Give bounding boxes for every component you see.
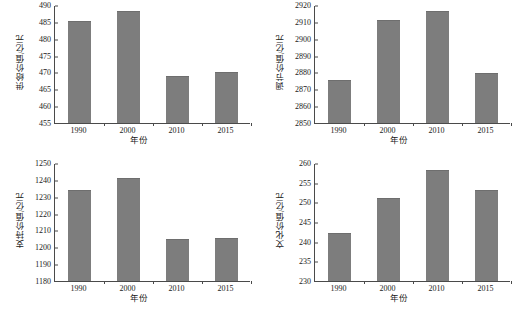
y-tick-mark [315, 39, 318, 40]
y-axis-title: 供给价值/亿元 [14, 0, 28, 124]
y-tick-mark [55, 214, 58, 215]
y-tick-mark [315, 56, 318, 57]
y-tick-label: 2910 [295, 19, 311, 27]
y-tick-label: 260 [299, 160, 311, 168]
x-tick-label: 2000 [380, 127, 396, 135]
bar [68, 21, 91, 123]
y-tick-label: 2850 [295, 120, 311, 128]
y-tick-label-column: 455460465470475480485490 [28, 6, 54, 124]
y-tick-mark [55, 39, 58, 40]
y-tick-mark [315, 203, 318, 204]
y-tick-mark [55, 180, 58, 181]
bar [117, 11, 140, 123]
y-tick-mark [55, 56, 58, 57]
y-tick-label: 475 [39, 53, 51, 61]
bar-series [55, 6, 250, 123]
y-tick-label: 455 [39, 120, 51, 128]
y-tick-label: 1220 [35, 211, 51, 219]
y-tick-label: 460 [39, 103, 51, 111]
x-axis-title: 年份 [28, 136, 250, 145]
x-tick-mark [104, 281, 105, 284]
plot-axes [54, 6, 250, 124]
bar [475, 190, 498, 281]
bar [68, 190, 91, 281]
plot-area-wrapper: 28502860287028802890290029102920 1990200… [288, 6, 510, 124]
x-tick-mark [251, 123, 252, 126]
x-axis-title: 年份 [288, 136, 510, 145]
x-tick-label: 2010 [429, 285, 445, 293]
y-tick-mark [315, 242, 318, 243]
bar [475, 73, 498, 123]
y-tick-label: 230 [299, 278, 311, 286]
y-tick-mark [55, 107, 58, 108]
y-tick-label: 485 [39, 19, 51, 27]
y-axis-title: 文化价值/亿元 [274, 158, 288, 282]
y-tick-label: 465 [39, 86, 51, 94]
y-tick-mark [315, 6, 318, 7]
bar-series [315, 6, 510, 123]
y-tick-label: 1240 [35, 177, 51, 185]
y-tick-label: 1200 [35, 244, 51, 252]
bar-series [55, 164, 250, 281]
x-axis-title: 年份 [288, 294, 510, 303]
bar [215, 238, 238, 281]
x-axis-title: 年份 [28, 294, 250, 303]
bar [328, 80, 351, 123]
y-tick-label: 240 [299, 239, 311, 247]
y-tick-label: 2880 [295, 69, 311, 77]
x-tick-label: 2010 [429, 127, 445, 135]
y-tick-label: 250 [299, 199, 311, 207]
chart-panel-bottom-right: 文化价值/亿元 230235240245250255260 1990200020… [260, 158, 520, 316]
y-tick-label: 1230 [35, 194, 51, 202]
y-tick-mark [315, 164, 318, 165]
x-tick-label: 2015 [218, 127, 234, 135]
bar-series [315, 164, 510, 281]
y-tick-label: 2920 [295, 2, 311, 10]
x-tick-label: 1990 [331, 127, 347, 135]
bar [377, 198, 400, 281]
y-tick-mark [55, 197, 58, 198]
y-tick-label: 2900 [295, 36, 311, 44]
y-tick-label: 1180 [35, 278, 51, 286]
y-tick-mark [55, 22, 58, 23]
y-tick-mark [55, 73, 58, 74]
x-tick-mark [153, 281, 154, 284]
x-tick-mark [413, 281, 414, 284]
plot-area-wrapper: 11801190120012101220123012401250 1990200… [28, 164, 250, 282]
y-tick-mark [55, 164, 58, 165]
bar [426, 170, 449, 281]
y-tick-label: 2890 [295, 53, 311, 61]
y-tick-label: 235 [299, 258, 311, 266]
y-tick-mark [315, 183, 318, 184]
x-tick-label: 1990 [71, 127, 87, 135]
bar [117, 178, 140, 281]
y-tick-label: 2860 [295, 103, 311, 111]
bar [377, 20, 400, 123]
multi-panel-bar-chart-figure: 供给价值/亿元 455460465470475480485490 1990200… [0, 0, 520, 316]
x-tick-label: 2010 [169, 285, 185, 293]
y-tick-label: 470 [39, 69, 51, 77]
x-tick-mark [413, 123, 414, 126]
y-tick-label-column: 28502860287028802890290029102920 [288, 6, 314, 124]
x-tick-label: 2000 [380, 285, 396, 293]
x-tick-mark [251, 281, 252, 284]
plot-area-wrapper: 455460465470475480485490 199020002010201… [28, 6, 250, 124]
y-tick-mark [55, 90, 58, 91]
bar [426, 11, 449, 123]
plot-axes [314, 6, 510, 124]
x-tick-label: 2015 [478, 285, 494, 293]
y-tick-label: 2870 [295, 86, 311, 94]
x-tick-mark [364, 123, 365, 126]
x-tick-mark [462, 123, 463, 126]
y-tick-label: 490 [39, 2, 51, 10]
bar [215, 72, 238, 123]
y-axis-title: 调节价值/亿元 [274, 0, 288, 124]
x-tick-label: 1990 [71, 285, 87, 293]
y-tick-mark [315, 73, 318, 74]
chart-panel-bottom-left: 支持价值/亿元 11801190120012101220123012401250… [0, 158, 260, 316]
y-tick-mark [315, 262, 318, 263]
x-tick-label: 2010 [169, 127, 185, 135]
y-axis-title: 支持价值/亿元 [14, 158, 28, 282]
y-tick-label-column: 11801190120012101220123012401250 [28, 164, 54, 282]
y-tick-mark [55, 231, 58, 232]
